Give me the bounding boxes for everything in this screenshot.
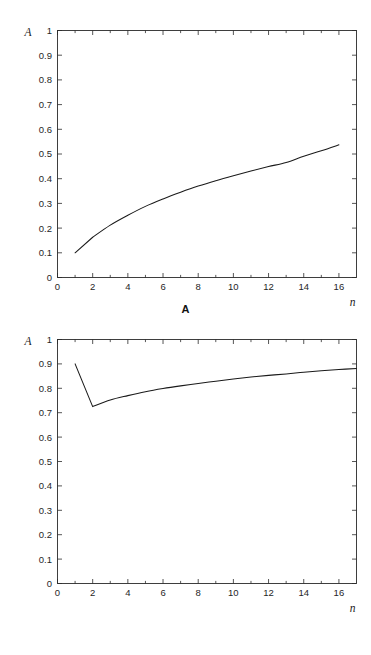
y-tick-label: 0.2: [39, 223, 52, 234]
y-tick-label: 0.9: [39, 358, 52, 369]
x-tick-label: 12: [263, 281, 274, 292]
y-axis-title: A: [24, 26, 33, 38]
x-tick-label: 0: [55, 587, 60, 598]
y-tick-label: 0.2: [39, 529, 52, 540]
y-tick-label: 0.8: [39, 74, 52, 85]
x-tick-label: 16: [334, 587, 345, 598]
chart-panel-b: 024681012141600.10.20.30.40.50.60.70.80.…: [0, 330, 371, 655]
y-tick-label: 0: [47, 578, 52, 589]
x-tick-label: 12: [263, 587, 274, 598]
y-tick-label: 0.6: [39, 432, 52, 443]
plot-area: 024681012141600.10.20.30.40.50.60.70.80.…: [24, 334, 357, 614]
x-tick-label: 16: [334, 281, 345, 292]
y-tick-label: 0.5: [39, 456, 52, 467]
x-tick-label: 8: [196, 281, 201, 292]
y-tick-label: 1: [47, 334, 52, 345]
y-tick-label: 0.7: [39, 407, 52, 418]
y-tick-label: 0.1: [39, 554, 52, 565]
x-tick-label: 6: [160, 281, 165, 292]
chart-panel-a: 024681012141600.10.20.30.40.50.60.70.80.…: [0, 0, 371, 330]
panel-caption-a: A: [0, 303, 371, 315]
x-tick-label: 10: [228, 587, 239, 598]
x-tick-label: 10: [228, 281, 239, 292]
x-tick-label: 14: [298, 281, 309, 292]
figure-panel-a: 024681012141600.10.20.30.40.50.60.70.80.…: [0, 0, 371, 330]
plot-area: 024681012141600.10.20.30.40.50.60.70.80.…: [24, 25, 357, 308]
x-axis-title: n: [350, 602, 356, 614]
y-tick-label: 0.1: [39, 247, 52, 258]
x-tick-label: 0: [55, 281, 60, 292]
y-tick-label: 0: [47, 272, 52, 283]
y-tick-label: 0.4: [39, 173, 52, 184]
y-tick-label: 0.3: [39, 505, 52, 516]
x-tick-label: 14: [298, 587, 309, 598]
y-tick-label: 1: [47, 25, 52, 36]
x-tick-label: 2: [90, 281, 95, 292]
x-tick-label: 4: [125, 281, 130, 292]
y-tick-label: 0.6: [39, 124, 52, 135]
y-tick-label: 0.3: [39, 198, 52, 209]
y-tick-label: 0.7: [39, 99, 52, 110]
x-tick-label: 8: [196, 587, 201, 598]
data-curve: [75, 364, 356, 407]
y-tick-label: 0.8: [39, 383, 52, 394]
y-axis-title: A: [24, 335, 33, 347]
data-curve: [75, 145, 339, 253]
y-tick-label: 0.9: [39, 50, 52, 61]
y-tick-label: 0.5: [39, 148, 52, 159]
x-tick-label: 6: [160, 587, 165, 598]
y-tick-label: 0.4: [39, 480, 52, 491]
x-tick-label: 4: [125, 587, 130, 598]
axis-frame: [58, 340, 357, 584]
figure-panel-b: 024681012141600.10.20.30.40.50.60.70.80.…: [0, 330, 371, 655]
x-tick-label: 2: [90, 587, 95, 598]
